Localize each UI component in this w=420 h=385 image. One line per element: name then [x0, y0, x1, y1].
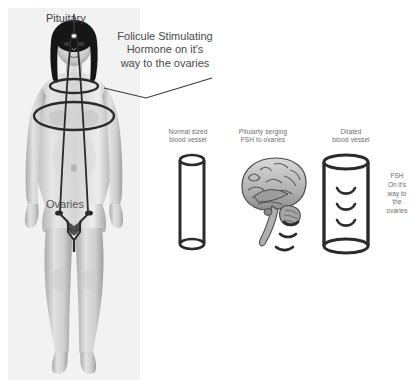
vessel-signal-arcs — [337, 188, 355, 226]
brain-sagittal-icon — [228, 152, 314, 258]
dilated-vessel-label: Dilated blood vessel — [320, 128, 382, 144]
pituitary-label: Pituitary — [46, 12, 86, 25]
diagram-canvas: Pituitary Ovaries Folicule Stimulating H… — [0, 0, 420, 385]
normal-vessel-label: Normal sized blood vessel — [156, 128, 220, 144]
ovaries-label: Ovaries — [46, 198, 84, 211]
fsh-signal-arcs — [276, 222, 298, 250]
cylinder-icon — [170, 150, 226, 258]
fsh-title-text: Folicule Stimulating Hormone on it's way… — [108, 30, 222, 70]
brain-fsh-label: Pituiarty serging FSH to ovaries — [228, 128, 298, 144]
fsh-side-note: FSH On it's way to the ovaries — [376, 172, 418, 216]
cylinder-wide-icon — [316, 148, 384, 260]
